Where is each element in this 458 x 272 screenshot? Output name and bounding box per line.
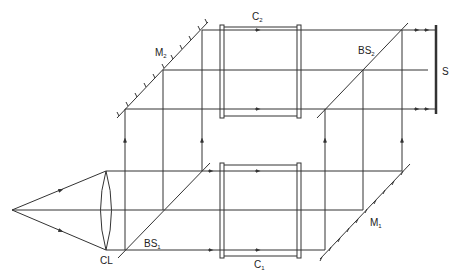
cell-2 [220, 25, 301, 118]
label-screen: S [442, 66, 449, 77]
interferometer-diagram: CL BS1 C1 M1 M2 C2 BS2 S [0, 0, 458, 272]
mirror-1 [320, 164, 410, 261]
source-rays [12, 171, 163, 250]
label-m1: M1 [370, 217, 382, 229]
label-c2: C2 [252, 11, 263, 23]
label-bs2: BS2 [358, 45, 375, 57]
label-lens: CL [100, 255, 113, 266]
label-bs1: BS1 [144, 238, 161, 250]
label-c1: C1 [254, 259, 265, 271]
label-m2: M2 [155, 47, 167, 59]
